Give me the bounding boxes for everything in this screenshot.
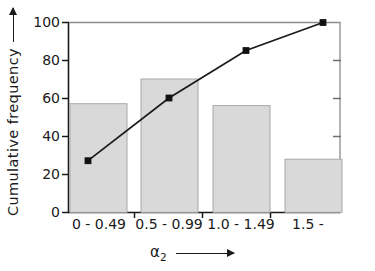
bar-3 bbox=[285, 159, 342, 212]
x-axis-title-base: α bbox=[150, 243, 160, 261]
right-arrow-icon bbox=[176, 253, 234, 254]
line-marker-3 bbox=[320, 19, 327, 26]
bar-series bbox=[70, 79, 342, 212]
bar-0 bbox=[70, 104, 127, 213]
bar-2 bbox=[213, 106, 270, 213]
line-marker-1 bbox=[166, 95, 173, 102]
x-axis-title-container: α2 bbox=[150, 243, 234, 263]
line-marker-0 bbox=[85, 157, 92, 164]
x-tick-label-2: 1.0 - 1.49 bbox=[207, 216, 274, 232]
x-axis-title-subscript: 2 bbox=[160, 251, 167, 263]
line-marker-2 bbox=[243, 47, 250, 54]
cumulative-frequency-chart: Cumulative frequency 100 80 60 40 20 0 bbox=[0, 0, 375, 271]
x-axis-title-label: α2 bbox=[150, 243, 167, 263]
x-axis-tick-labels: 0 - 0.49 0.5 - 0.99 1.0 - 1.49 1.5 - bbox=[68, 216, 328, 238]
x-tick-label-3: 1.5 - bbox=[292, 216, 324, 232]
x-tick-label-1: 0.5 - 0.99 bbox=[135, 216, 202, 232]
x-tick-label-0: 0 - 0.49 bbox=[72, 216, 126, 232]
